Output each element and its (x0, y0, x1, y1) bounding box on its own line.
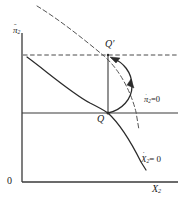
x-nullcline-equation: = 0 (149, 154, 161, 164)
x-nullcline-dot-accent: ˙ (143, 153, 145, 160)
trajectory-arrowhead-end (110, 57, 120, 63)
pi-nullcline-equation: =0 (151, 94, 160, 104)
x-axis-label-subscript: 2 (158, 187, 161, 194)
x-nullcline-label: ˙X2= 0 (141, 155, 161, 165)
pi-nullcline-label: ˙π2=0 (144, 95, 160, 104)
y-axis-label: ̄π2 (13, 26, 20, 36)
point-marker-q (107, 112, 110, 115)
x-axis-label: X2 (152, 184, 161, 195)
point-label-q-prime: Q′ (105, 39, 114, 49)
y-axis-label-symbol: π (13, 25, 18, 35)
phase-diagram-figure: ̄π2 X2 0 Q′ Q ˙π2=0 ˙X2= 0 (0, 0, 181, 199)
point-marker-q-prime (107, 54, 109, 56)
origin-label: 0 (7, 176, 12, 186)
pi-nullcline-dot-accent: ˙ (145, 93, 147, 100)
point-label-q: Q (97, 114, 104, 124)
trajectory-arrowhead-mid (127, 79, 134, 88)
saddle-path-dashed-curve (37, 6, 139, 130)
